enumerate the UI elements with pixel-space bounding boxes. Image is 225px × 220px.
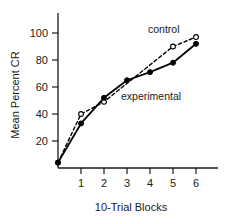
x-axis-ticks: [81, 168, 196, 174]
x-tick-label-6: 6: [193, 177, 199, 189]
x-axis-title: 10-Trial Blocks: [95, 201, 168, 213]
series-label-experimental: experimental: [121, 90, 181, 102]
series-label-control: control: [148, 23, 180, 35]
x-tick-label-1: 1: [78, 177, 84, 189]
x-tick-label-4: 4: [147, 177, 153, 189]
x-tick-label-5: 5: [170, 177, 176, 189]
y-tick-label-20: 20: [36, 135, 48, 147]
y-tick-label-80: 80: [36, 54, 48, 66]
y-tick-label-40: 40: [36, 108, 48, 120]
y-tick-label-60: 60: [36, 81, 48, 93]
x-tick-label-2: 2: [101, 177, 107, 189]
line-chart: 100 80 60 40 20 1 2 3 4 5 6 Mean Percent…: [0, 0, 225, 220]
chart-figure: 100 80 60 40 20 1 2 3 4 5 6 Mean Percent…: [0, 0, 225, 220]
x-tick-label-3: 3: [124, 177, 130, 189]
y-axis-title: Mean Percent CR: [9, 51, 21, 138]
y-tick-label-100: 100: [30, 27, 48, 39]
y-axis-ticks: [52, 33, 58, 141]
